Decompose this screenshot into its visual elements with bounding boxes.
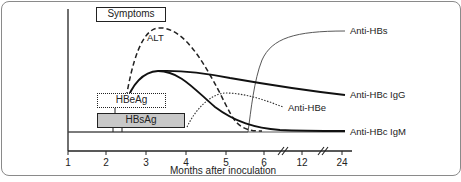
- anti-hbs-label: Anti-HBs: [350, 25, 387, 36]
- anti-hbc-igm-curve: [158, 71, 345, 131]
- tick-label: 2: [103, 157, 109, 168]
- anti-hbc-igm-label: Anti-HBc IgM: [350, 126, 406, 137]
- tick-label: 12: [296, 157, 307, 168]
- anti-hbe-curve: [187, 93, 283, 127]
- symptoms-box: Symptoms: [96, 7, 166, 22]
- anti-hbc-igg-label: Anti-HBc IgG: [350, 89, 405, 100]
- tick-label: 3: [143, 157, 149, 168]
- alt-label: ALT: [147, 32, 164, 43]
- anti-hbe-label: Anti-HBe: [288, 102, 326, 113]
- hbsag-box: HBsAg: [97, 113, 185, 128]
- hbeag-box: HBeAg: [97, 93, 166, 108]
- tick-label: 1: [65, 157, 71, 168]
- x-axis-title: Months after inoculation: [170, 165, 276, 176]
- tick-label: 24: [336, 157, 347, 168]
